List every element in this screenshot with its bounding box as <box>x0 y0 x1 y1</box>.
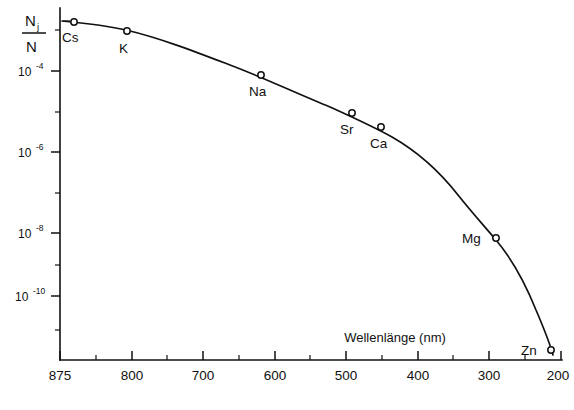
y-tick-label-4: 10 -10 <box>15 286 46 304</box>
y-tick-base-1: 10 <box>18 65 32 79</box>
data-curve <box>62 21 553 355</box>
y-tick-base-4: 10 <box>15 290 29 304</box>
y-tick-exponent-2: -6 <box>36 142 44 152</box>
y-axis-denominator: N <box>26 38 37 55</box>
data-point-marker[interactable] <box>493 235 499 241</box>
data-point-marker[interactable] <box>258 72 264 78</box>
y-axis-title: N j N <box>22 12 46 55</box>
data-point-marker[interactable] <box>71 19 77 25</box>
data-point-label-na: Na <box>249 84 267 99</box>
x-tick-label-500: 500 <box>335 368 358 383</box>
y-tick-base-2: 10 <box>18 146 32 160</box>
line-chart: 10 -4 10 -6 10 -8 10 -10 N j N 875 800 7… <box>0 0 574 410</box>
data-point-label-mg: Mg <box>462 231 481 246</box>
data-point-marker[interactable] <box>378 124 384 130</box>
data-point-label-k: K <box>119 41 128 56</box>
data-point-marker[interactable] <box>548 347 554 353</box>
data-point-label-zn: Zn <box>521 343 537 358</box>
data-point-label-cs: Cs <box>62 30 79 45</box>
chart-container: 10 -4 10 -6 10 -8 10 -10 N j N 875 800 7… <box>0 0 574 410</box>
x-tick-label-875: 875 <box>49 368 72 383</box>
y-tick-label-1: 10 -4 <box>18 61 44 79</box>
y-tick-exponent-3: -8 <box>36 223 44 233</box>
data-point-marker[interactable] <box>349 110 355 116</box>
x-tick-label-400: 400 <box>407 368 430 383</box>
y-axis-numerator-subscript: j <box>36 21 39 32</box>
x-tick-label-600: 600 <box>264 368 287 383</box>
y-tick-base-3: 10 <box>18 227 32 241</box>
x-axis-title: Wellenlänge (nm) <box>344 330 446 345</box>
x-tick-label-700: 700 <box>192 368 215 383</box>
y-tick-label-2: 10 -6 <box>18 142 44 160</box>
data-point-label-ca: Ca <box>370 136 388 151</box>
data-point-label-sr: Sr <box>340 122 354 137</box>
y-axis-numerator: N <box>25 12 36 29</box>
x-tick-label-800: 800 <box>121 368 144 383</box>
y-tick-label-3: 10 -8 <box>18 223 44 241</box>
x-tick-label-300: 300 <box>478 368 501 383</box>
y-tick-exponent-4: -10 <box>33 286 46 296</box>
x-tick-label-200: 200 <box>547 368 570 383</box>
y-axis-major-ticks <box>51 71 60 296</box>
y-tick-exponent-1: -4 <box>36 61 44 71</box>
data-point-marker[interactable] <box>124 28 130 34</box>
